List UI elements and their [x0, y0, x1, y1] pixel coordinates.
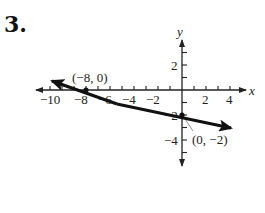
x-axis-label: x	[248, 83, 255, 98]
y-tick-labels: 2 −2 −4	[164, 58, 178, 148]
coordinate-graph: y x −10 −8 −6 −4 −2 2 4 2 −2 −4 (−8, 0) …	[0, 0, 265, 213]
point-y-intercept	[179, 112, 184, 117]
point-label-y-intercept: (0, −2)	[192, 132, 228, 147]
x-tick-label: −2	[146, 92, 160, 107]
point-x-intercept	[83, 87, 88, 92]
x-tick-label: −10	[40, 92, 60, 107]
y-ticks	[182, 53, 187, 153]
y-tick-label: −4	[164, 133, 178, 148]
y-axis-label: y	[175, 24, 183, 39]
y-tick-label: 2	[171, 58, 178, 73]
x-tick-label: 2	[202, 92, 209, 107]
x-tick-labels: −10 −8 −6 −4 −2 2 4	[40, 92, 233, 107]
point-label-x-intercept: (−8, 0)	[72, 70, 108, 85]
x-tick-label: 4	[226, 92, 233, 107]
y-axis	[182, 40, 187, 166]
